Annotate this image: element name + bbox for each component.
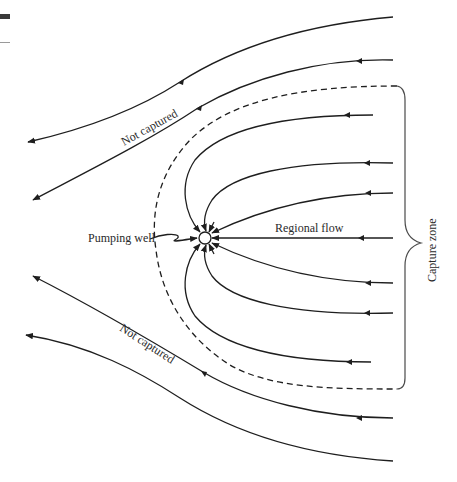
arrowhead [356,415,362,421]
not-captured-streamlines-lower [26,276,393,461]
streamline-upper-inner [33,60,393,200]
arrowhead [364,310,370,316]
captured-streamline-6 [185,244,371,362]
pumping-well [199,232,211,244]
label-pumping-well: Pumping well [88,231,156,245]
label-capture-zone: Capture zone [425,218,439,282]
captured-streamline-4 [212,243,393,283]
arrowhead [346,359,352,365]
streamline-lower-outer [26,335,393,461]
arrowhead [201,371,207,377]
capture-zone-diagram: Pumping well Regional flow Capture zone … [0,0,457,482]
well-inflow-bottom [209,244,214,254]
captured-streamline-1 [185,115,373,232]
captured-streamlines [185,112,393,365]
arrowhead [365,280,371,286]
arrowhead [356,58,362,64]
captured-streamline-5 [205,245,393,313]
arrowhead [364,160,370,166]
streamline-lower-inner [33,276,393,418]
arrowhead [344,112,350,118]
label-not-captured-lower: Not captured [117,321,177,367]
not-captured-streamlines-upper [28,17,393,200]
arrowhead [365,190,371,196]
label-not-captured-upper: Not captured [119,106,180,148]
label-regional-flow: Regional flow [275,221,344,235]
capture-zone-brace [397,86,421,389]
pumping-well-leader [150,234,197,241]
arrowhead [358,235,364,241]
well-inflow-top [209,222,214,232]
